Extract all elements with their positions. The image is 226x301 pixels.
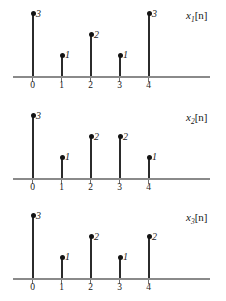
value-label-x3-n2: 2 [94, 232, 99, 242]
x-tick-label-x3-n0: 0 [26, 283, 40, 293]
value-label-x3-n1: 1 [65, 252, 70, 262]
stem-dot-x3-n3 [118, 255, 123, 260]
x-axis-x3 [13, 278, 210, 280]
signal-label-x3: x3[n] [186, 212, 207, 226]
value-label-x3-n0: 3 [36, 211, 41, 221]
stem-dot-x3-n2 [89, 234, 94, 239]
x-tick-label-x3-n1: 1 [55, 283, 69, 293]
x-tick-label-x3-n3: 3 [113, 283, 127, 293]
x-tick-label-x3-n4: 4 [142, 283, 156, 293]
stem-x3-n1 [61, 257, 63, 278]
value-label-x3-n3: 1 [123, 252, 128, 262]
stem-x3-n2 [90, 237, 92, 278]
signal-label-bracket-x3: [n] [195, 211, 208, 223]
stem-panel-x3: 3011221324x3[n] [0, 0, 226, 301]
stem-x3-n3 [119, 257, 121, 278]
value-label-x3-n4: 2 [152, 232, 157, 242]
stem-x3-n4 [148, 237, 150, 278]
stem-dot-x3-n1 [60, 255, 65, 260]
stem-x3-n0 [32, 216, 34, 278]
stem-dot-x3-n0 [31, 213, 36, 218]
stem-plot-figure: 3011221334x1[n]3011222314x2[n]3011221324… [0, 0, 226, 301]
x-tick-label-x3-n2: 2 [84, 283, 98, 293]
stem-dot-x3-n4 [147, 234, 152, 239]
